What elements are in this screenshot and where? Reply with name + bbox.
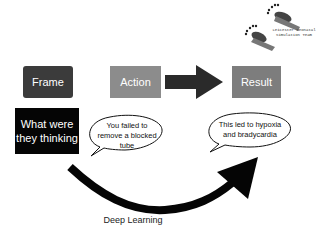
thinking-box: What were they thinking [15,108,79,154]
action-bubble-text: You failed to remove a blocked tube [93,121,161,151]
deep-learning-caption: Deep Learning [98,215,168,225]
curved-arrow-icon [70,167,232,210]
thinking-line1: What were [16,117,78,131]
result-bubble-text: This led to hypoxia and bradycardia [212,120,288,140]
right-arrow-icon [165,65,223,99]
thinking-line2: they thinking [16,131,78,145]
